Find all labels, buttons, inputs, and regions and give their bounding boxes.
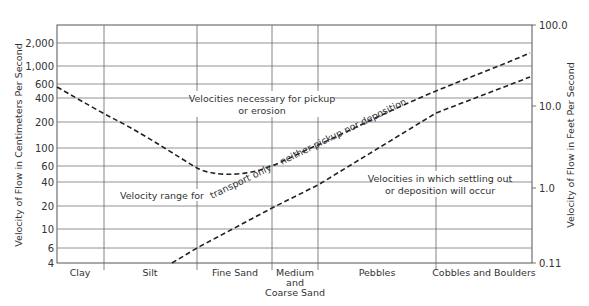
svg-text:2,000: 2,000 — [25, 38, 54, 49]
plot-frame — [57, 25, 532, 263]
svg-text:10: 10 — [41, 224, 54, 235]
transport-annotation-a: Velocity range for — [120, 190, 204, 201]
svg-text:Fine Sand: Fine Sand — [212, 267, 258, 278]
svg-text:200: 200 — [35, 117, 54, 128]
svg-text:0.11: 0.11 — [539, 258, 561, 269]
svg-text:Pebbles: Pebbles — [359, 267, 396, 278]
right-axis-title: Velocity of Flow in Feet Per Second — [565, 62, 576, 227]
right-axis-ticks: 100.0 10.0 1.0 0.11 — [539, 20, 568, 269]
svg-text:1,000: 1,000 — [25, 61, 54, 72]
settle-annotation-line2: or deposition will occur — [385, 185, 495, 196]
svg-text:Cobbles and Boulders: Cobbles and Boulders — [432, 267, 536, 278]
svg-text:10.0: 10.0 — [539, 101, 561, 112]
svg-text:Clay: Clay — [70, 267, 91, 278]
v-gridlines — [104, 25, 436, 270]
svg-text:100: 100 — [35, 143, 54, 154]
svg-text:40: 40 — [41, 177, 54, 188]
svg-text:4: 4 — [48, 258, 54, 269]
pickup-annotation-line1: Velocities necessary for pickup — [189, 93, 336, 104]
svg-text:60: 60 — [41, 161, 54, 172]
pickup-annotation-line2: or erosion — [238, 105, 286, 116]
svg-text:1.0: 1.0 — [539, 183, 555, 194]
svg-text:100.0: 100.0 — [539, 20, 568, 31]
chart: 2,000 1,000 600 400 200 100 60 40 20 10 … — [0, 0, 589, 306]
svg-text:6: 6 — [48, 243, 54, 254]
left-axis-ticks: 2,000 1,000 600 400 200 100 60 40 20 10 … — [25, 38, 54, 269]
svg-text:20: 20 — [41, 201, 54, 212]
svg-text:600: 600 — [35, 79, 54, 90]
settle-annotation-line1: Velocities in which settling out — [368, 173, 513, 184]
h-gridlines — [57, 43, 532, 248]
category-labels: Clay Silt Fine Sand Medium and Coarse Sa… — [70, 267, 536, 298]
svg-text:Coarse Sand: Coarse Sand — [265, 287, 325, 298]
svg-text:Silt: Silt — [142, 267, 157, 278]
right-axis-tickmarks — [532, 25, 536, 263]
svg-text:400: 400 — [35, 93, 54, 104]
left-axis-title: Velocity of Flow in Centimeters Per Seco… — [13, 43, 24, 246]
